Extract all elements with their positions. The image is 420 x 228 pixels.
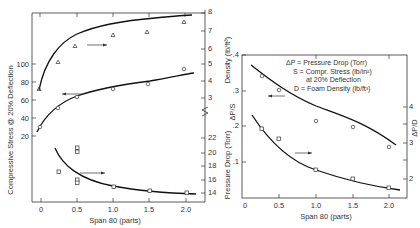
dpd-tick: 3 (409, 138, 413, 147)
left-ytick: 100 (16, 60, 29, 69)
density-curve (39, 15, 192, 90)
density-label: Density (lb/ft³) (223, 36, 232, 83)
figure: 100 80 60 40 20 8 7 6 5 4 3 22 20 18 16 … (0, 0, 420, 228)
dpd-label: ΔP/D (410, 119, 419, 137)
right-xtick: 0 (243, 201, 247, 210)
arrow-right-head-icon (103, 44, 107, 47)
right-chart: .4 .3 .2 .1 4 3 2 0 0.5 1.0 1.5 2.0 Span… (228, 50, 419, 221)
right-xtick: 0.5 (274, 201, 284, 210)
density-tick: 8 (208, 7, 212, 16)
density-tick: 3 (208, 93, 212, 102)
left-ylabel: Compressive Stress @ 20% Deflection (6, 65, 15, 194)
pressure-tick: 16 (208, 175, 216, 184)
pressure-curve (55, 148, 196, 194)
pressure-label: Pressure Drop (Torr) (223, 130, 232, 199)
left-xtick: 1.0 (108, 205, 118, 214)
dpd-markers (260, 127, 391, 190)
right-xtick: 2.0 (384, 201, 394, 210)
right-ytick: .2 (233, 121, 239, 130)
dpd-tick: 2 (409, 174, 413, 183)
pressure-tick: 20 (208, 148, 216, 157)
dpd-curve (252, 115, 400, 190)
right-ytick: .3 (233, 86, 239, 95)
stress-markers (38, 67, 186, 129)
density-tick: 4 (208, 76, 212, 85)
right-xlabel: Span 80 (parts) (300, 212, 352, 221)
legend-line-3: at 20% Deflection (306, 76, 361, 83)
left-chart: 100 80 60 40 20 8 7 6 5 4 3 22 20 18 16 … (6, 7, 232, 225)
pressure-tick: 14 (208, 188, 216, 197)
pressure-tick: 18 (208, 161, 216, 170)
legend-line-2: S = Compr. Stress (lb/in²) (293, 68, 372, 76)
dps-label: ΔP/S (228, 103, 237, 120)
density-markers (37, 20, 186, 91)
density-tick: 5 (208, 59, 212, 68)
right-ytick: .1 (233, 157, 239, 166)
arrow-right-head-icon (308, 152, 312, 155)
legend-line-4: D = Foam Density (lb/ft³) (294, 85, 370, 93)
left-ytick: 20 (21, 132, 29, 141)
left-ytick: 80 (21, 78, 29, 87)
right-xtick: 1.0 (311, 201, 321, 210)
arrow-left-head-icon (62, 93, 66, 96)
dpd-tick: 4 (409, 102, 413, 111)
pressure-tick: 22 (208, 133, 216, 142)
right-ytick: .4 (233, 50, 239, 59)
stress-curve (37, 73, 194, 132)
left-xtick: 1.5 (144, 205, 154, 214)
left-xtick: 2.0 (181, 205, 191, 214)
left-xlabel: Span 80 (parts) (89, 216, 141, 225)
arrow-left-head-icon (268, 95, 272, 98)
left-xtick: 0.5 (72, 205, 82, 214)
density-tick: 6 (208, 44, 212, 53)
left-xtick: 0 (39, 205, 43, 214)
left-ytick: 60 (21, 96, 29, 105)
axis-break-icon (202, 107, 208, 116)
legend-line-1: ΔP = Pressure Drop (Torr) (286, 59, 367, 67)
right-xtick: 1.5 (348, 201, 358, 210)
density-tick: 7 (208, 26, 212, 35)
arrow-right-head-icon (101, 172, 105, 175)
left-ytick: 40 (21, 114, 29, 123)
